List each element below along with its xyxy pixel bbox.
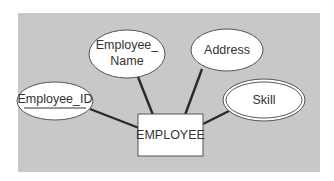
entity-label: EMPLOYEE xyxy=(136,128,205,142)
attribute-address: Address xyxy=(191,29,263,71)
attribute-label: Employee_ID xyxy=(17,92,92,106)
attribute-label-line1: Employee_ xyxy=(96,38,160,52)
attribute-label: Address xyxy=(204,43,250,57)
attribute-employee-name: Employee_ Name xyxy=(89,30,165,78)
entity-employee: EMPLOYEE xyxy=(136,114,205,156)
attribute-employee-id: Employee_ID xyxy=(17,82,93,120)
er-diagram: Employee_ Name Address Employee_ID Skill… xyxy=(0,0,334,181)
attribute-label-line2: Name xyxy=(110,54,143,68)
attribute-skill: Skill xyxy=(223,79,305,121)
attribute-label: Skill xyxy=(253,93,276,107)
